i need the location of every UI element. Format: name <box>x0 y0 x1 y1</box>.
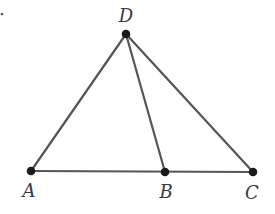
label-D: D <box>118 5 134 26</box>
label-A: A <box>21 180 36 201</box>
point-B <box>161 168 170 177</box>
point-D <box>122 30 131 39</box>
point-C <box>249 168 258 177</box>
segment-AD <box>31 34 126 171</box>
stray-mark <box>1 13 4 16</box>
triangle-diagram: D A B C <box>0 0 275 214</box>
label-B: B <box>158 181 172 202</box>
point-A <box>27 167 36 176</box>
segment-AC <box>31 171 253 172</box>
label-C: C <box>245 182 259 203</box>
